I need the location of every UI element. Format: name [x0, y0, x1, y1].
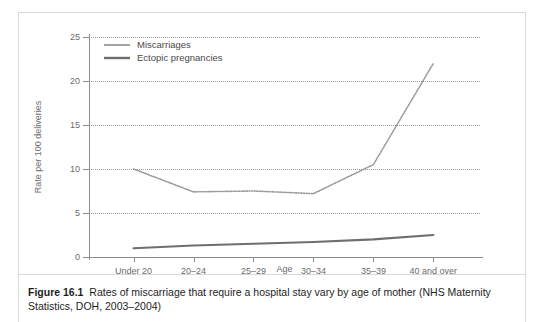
x-tick-3 — [313, 257, 314, 262]
legend-item-0: Miscarriages — [104, 38, 223, 51]
y-axis-title: Rate per 100 deliveries — [33, 101, 43, 194]
gridline-y-15 — [89, 125, 480, 126]
plot-area: 0510152025Under 2020–2425–2930–3435–3940… — [89, 37, 480, 257]
series-line-ectopic-pregnancies — [134, 235, 434, 248]
gridline-y-5 — [89, 213, 480, 214]
series-lines — [89, 37, 480, 257]
figure-page: Rate per 100 deliveries 0510152025Under … — [0, 0, 545, 322]
series-line-miscarriages — [134, 63, 434, 193]
caption-rule-right — [525, 274, 526, 322]
legend-label-0: Miscarriages — [137, 38, 191, 51]
y-tick-15 — [83, 125, 89, 126]
caption-rule-left — [18, 274, 19, 322]
x-tick-2 — [253, 257, 254, 262]
y-tick-label-20: 20 — [70, 76, 80, 86]
legend-swatch-solid — [104, 53, 130, 63]
x-tick-4 — [373, 257, 374, 262]
caption-body: Rates of miscarriage that require a hosp… — [28, 286, 491, 312]
line-chart: Rate per 100 deliveries 0510152025Under … — [0, 0, 545, 276]
figure-caption: Figure 16.1 Rates of miscarriage that re… — [28, 285, 498, 313]
x-axis-line — [86, 257, 483, 258]
gridline-y-20 — [89, 81, 480, 82]
legend-label-1: Ectopic pregnancies — [137, 51, 223, 64]
chart-legend: MiscarriagesEctopic pregnancies — [104, 38, 223, 64]
y-tick-25 — [83, 37, 89, 38]
y-tick-label-25: 25 — [70, 32, 80, 42]
y-tick-5 — [83, 213, 89, 214]
y-tick-label-15: 15 — [70, 120, 80, 130]
x-tick-1 — [194, 257, 195, 262]
y-tick-label-10: 10 — [70, 164, 80, 174]
y-tick-0 — [83, 257, 89, 258]
y-tick-20 — [83, 81, 89, 82]
y-tick-10 — [83, 169, 89, 170]
x-tick-0 — [134, 257, 135, 262]
legend-item-1: Ectopic pregnancies — [104, 51, 223, 64]
x-axis-title: Age — [89, 264, 480, 274]
gridline-y-10 — [89, 169, 480, 170]
caption-label: Figure 16.1 — [28, 286, 83, 298]
y-tick-label-5: 5 — [75, 208, 80, 218]
legend-swatch-dotted — [104, 40, 130, 50]
y-tick-label-0: 0 — [75, 252, 80, 262]
x-tick-5 — [433, 257, 434, 262]
